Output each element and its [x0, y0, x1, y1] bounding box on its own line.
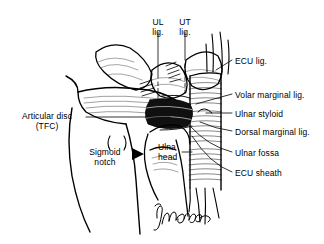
label-volar-marginal-lig: Volar marginal lig. [235, 91, 304, 101]
label-articular-disc-line2: (TFC) [8, 122, 86, 132]
anatomical-figure: UL lig. UT lig. Articular disc (TFC) Sig… [0, 0, 324, 244]
tfc-articular-disc [145, 99, 192, 129]
label-ulna-head: Ulna head [158, 143, 188, 162]
intercarpal-hatching [140, 62, 181, 96]
carpal-bone-triquetrum [185, 52, 222, 90]
label-sigmoid-notch: Sigmoid notch [78, 148, 132, 167]
label-ecu-lig: ECU lig. [235, 57, 267, 67]
leader-dorsal-marginal [200, 122, 232, 131]
label-ulnar-fossa: Ulnar fossa [235, 149, 279, 159]
label-dorsal-marginal-lig: Dorsal marginal lig. [235, 128, 310, 138]
label-articular-disc: Articular disc (TFC) [8, 112, 86, 131]
ulna-head-contour [144, 125, 190, 216]
leader-ecu-lig [216, 60, 232, 70]
leader-volar-marginal [196, 94, 232, 104]
sigmoid-notch-arrow [132, 148, 144, 160]
artist-signature [154, 204, 210, 230]
label-sigmoid-notch-line2: notch [78, 158, 132, 168]
label-ut-lig-line2: lig. [167, 28, 203, 38]
label-ulna-head-line2: head [158, 153, 188, 163]
ecu-tendon [206, 32, 229, 74]
label-ut-lig: UT lig. [167, 18, 203, 37]
ulna-distal-strands [189, 188, 219, 224]
label-ulnar-styloid: Ulnar styloid [235, 110, 283, 120]
label-ecu-sheath: ECU sheath [235, 169, 282, 179]
